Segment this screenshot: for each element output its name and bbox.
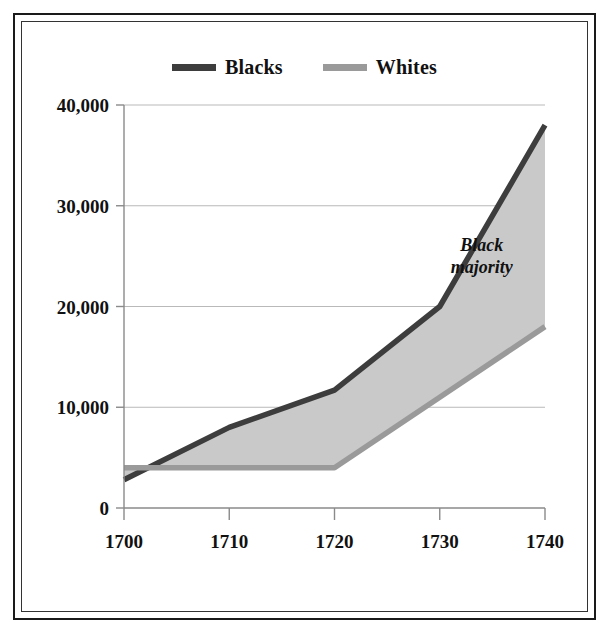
- y-axis-tick-labels: 010,00020,00030,00040,000: [57, 95, 109, 519]
- x-tick-label: 1700: [105, 531, 143, 552]
- y-tick-label: 10,000: [57, 397, 109, 418]
- x-tick-label: 1730: [421, 531, 459, 552]
- annotation-black-majority: Black: [459, 235, 503, 255]
- x-tick-label: 1710: [210, 531, 248, 552]
- y-tick-label: 40,000: [57, 95, 109, 116]
- area-between-series-shape: [124, 125, 545, 480]
- x-tick-label: 1720: [316, 531, 354, 552]
- x-tick-label: 1740: [526, 531, 564, 552]
- y-tick-label: 20,000: [57, 297, 109, 318]
- line-chart: 010,00020,00030,00040,000 17001710172017…: [0, 0, 609, 633]
- annotation-black-majority: majority: [451, 257, 514, 277]
- x-axis-tick-labels: 17001710172017301740: [105, 531, 564, 552]
- y-tick-label: 30,000: [57, 196, 109, 217]
- y-tick-label: 0: [100, 498, 110, 519]
- area-between-series: [124, 125, 545, 480]
- plot-area-wrapper: 010,00020,00030,00040,000 17001710172017…: [0, 0, 609, 633]
